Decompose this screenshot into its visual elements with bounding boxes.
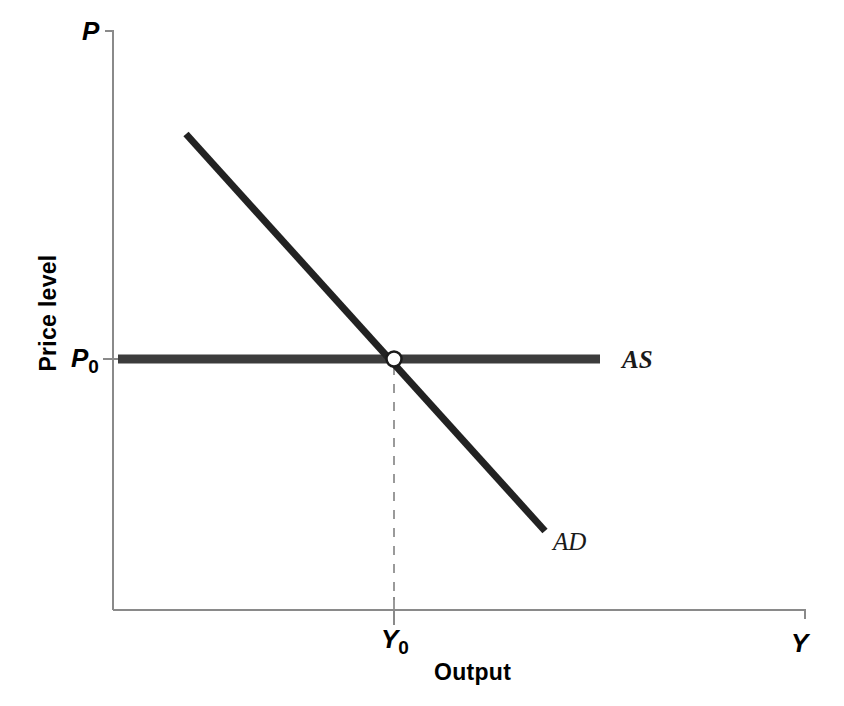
x-axis-tip-label: Y (791, 630, 808, 656)
x-tick-label-y0-base: Y (381, 624, 398, 654)
y-axis-line (105, 31, 113, 610)
ad-curve-label: AD (553, 529, 586, 554)
ad-curve (186, 134, 545, 531)
x-axis-line (113, 610, 805, 619)
x-tick-label-y0: Y0 (381, 626, 409, 652)
as-curve-label: AS (622, 347, 653, 372)
y-tick-label-p0-subscript: 0 (88, 356, 99, 377)
y-axis-title: Price level (37, 254, 60, 371)
y-axis-tip-label: P (82, 18, 99, 44)
y-tick-label-p0-base: P (71, 343, 88, 373)
figure-canvas: P P0 Price level Y0 Y Output AS AD (0, 0, 844, 706)
x-tick-label-y0-subscript: 0 (398, 637, 409, 658)
y-tick-label-p0: P0 (71, 345, 99, 371)
ad-as-plot (0, 0, 844, 706)
equilibrium-point-marker (387, 352, 402, 367)
x-axis-title: Output (434, 661, 511, 684)
